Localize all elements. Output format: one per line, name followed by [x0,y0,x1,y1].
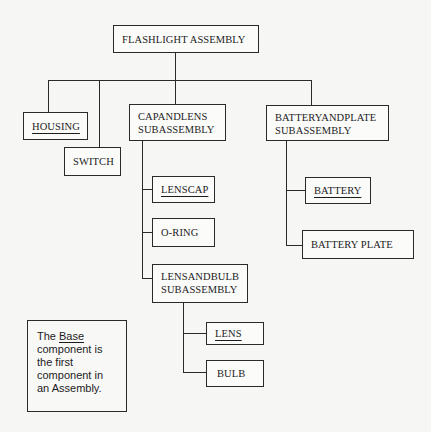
node-label-line2: SUBASSEMBLY [138,123,219,136]
node-housing: HOUSING [23,112,88,140]
connector-switch [99,80,100,147]
node-label: BATTERY [314,184,361,197]
connector-root-down [175,52,176,80]
node-label-line1: CAPANDLENS [138,110,219,123]
connector-lens [183,333,206,334]
node-label: O-RING [161,226,198,239]
node-lenscap: LENSCAP [152,176,215,203]
connector-bulb [183,372,206,373]
connector-batteryandplate [311,80,312,105]
note-prefix: The [37,330,59,342]
connector-lensandbulb-trunk [183,302,184,373]
base-component-note: The Base component is the first componen… [27,320,127,412]
node-switch: SWITCH [64,147,121,176]
node-label: BATTERY PLATE [311,238,393,251]
node-label-line2: SUBASSEMBLY [161,283,241,296]
node-label-line2: SUBASSEMBLY [275,124,382,137]
node-label: LENS [215,327,242,340]
connector-level1-bus [48,80,312,81]
node-label: SWITCH [73,155,114,168]
connector-housing [48,80,49,112]
connector-oring [142,232,152,233]
node-label: HOUSING [32,120,80,133]
node-flashlight-assembly: FLASHLIGHT ASSEMBLY [113,25,259,53]
connector-lenscap [142,189,152,190]
note-line4: component in [37,369,118,382]
node-label: FLASHLIGHT ASSEMBLY [122,33,245,46]
note-line2: component is [37,343,118,356]
note-line5: an Assembly. [37,382,118,395]
note-line3: the first [37,356,118,369]
node-battery-plate: BATTERY PLATE [302,230,414,259]
node-label-line1: BATTERYANDPLATE [275,111,382,124]
connector-battery [286,190,305,191]
node-capandlens-subassembly: CAPANDLENS SUBASSEMBLY [129,104,226,141]
node-oring: O-RING [152,218,215,247]
note-line1: The Base [37,330,118,343]
connector-lensandbulb [142,278,152,279]
node-lens: LENS [206,322,264,345]
node-bulb: BULB [206,360,264,387]
note-keyword-base: Base [59,330,84,342]
connector-batteryandplate-trunk [286,140,287,246]
node-lensandbulb-subassembly: LENSANDBULB SUBASSEMBLY [152,264,248,303]
node-battery: BATTERY [305,177,371,204]
node-label: BULB [217,367,245,380]
connector-capandlens-trunk [142,140,143,279]
node-label: LENSCAP [161,183,208,196]
connector-capandlens [175,80,176,104]
connector-batteryplate [286,245,302,246]
node-label-line1: LENSANDBULB [161,270,241,283]
node-batteryandplate-subassembly: BATTERYANDPLATE SUBASSEMBLY [266,105,389,141]
